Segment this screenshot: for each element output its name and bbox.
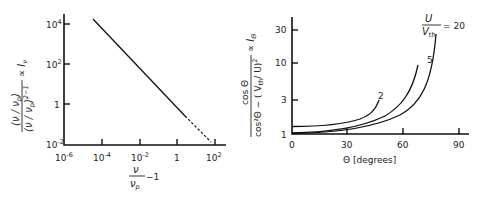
- left-xlabel-suffix: −1: [146, 172, 159, 182]
- left-xlabel: ν νp −1: [129, 164, 159, 191]
- left-xtick-label: 10-4: [93, 151, 111, 163]
- right-ylabel: cos Θ cos²Θ − ( Vth/ U)2 ∝ IΘ: [240, 34, 265, 137]
- curve-label-5: 5: [427, 55, 433, 65]
- legend-u-vth: U Vth = 20: [422, 13, 465, 39]
- right-ytick-label: 30: [275, 25, 287, 35]
- left-axes: [64, 14, 226, 145]
- left-ytick-label: 104: [46, 18, 62, 30]
- right-axes: [292, 17, 469, 134]
- right-ytick-label: 3: [281, 95, 287, 105]
- legend-num: U: [425, 13, 433, 24]
- right-ytick-label: 10: [275, 58, 287, 68]
- left-curve-solid: [93, 19, 185, 116]
- right-ytick-label: 1: [281, 130, 287, 140]
- figure-canvas: 104 102 1 10-2 10-6 10-4 10-2 1 102 ν νp…: [0, 0, 477, 201]
- right-ylabel-den: cos²Θ − ( Vth/ U)2: [251, 59, 265, 137]
- right-xtick-label: 30: [341, 140, 353, 150]
- right-curve-U2: [292, 100, 379, 127]
- right-ylabel-num: cos Θ: [240, 80, 250, 105]
- left-xlabel-den: νp: [130, 178, 140, 191]
- right-curve-U20: [292, 34, 436, 134]
- left-xtick-label: 10-2: [131, 151, 149, 163]
- left-xtick-label: 10-6: [55, 151, 73, 163]
- right-xtick-label: 60: [397, 140, 409, 150]
- legend-eq: = 20: [443, 21, 465, 31]
- left-xtick-label: 102: [206, 151, 222, 163]
- right-xlabel: Θ [degrees]: [343, 155, 396, 165]
- right-chart: 30 10 3 1 0 30 60 90 Θ [degrees] 2 5 U V…: [240, 13, 469, 165]
- left-ytick-label: 1: [54, 100, 60, 110]
- left-ylabel-den: (ν / νp)2−1: [22, 85, 36, 132]
- right-xtick-label: 90: [453, 140, 465, 150]
- left-ylabel-prop: ∝ Iν: [16, 60, 29, 77]
- left-curve-dashed: [185, 116, 211, 142]
- left-xtick-label: 1: [174, 153, 180, 163]
- right-xtick-label: 0: [289, 140, 295, 150]
- legend-den: Vth: [422, 26, 436, 39]
- left-chart: 104 102 1 10-2 10-6 10-4 10-2 1 102 ν νp…: [10, 14, 226, 191]
- right-ylabel-prop: ∝ IΘ: [245, 34, 258, 52]
- right-curve-U5: [292, 65, 418, 133]
- left-ylabel: (ν / νp) (ν / νp)2−1 ∝ Iν: [10, 60, 36, 132]
- left-ytick-label: 102: [46, 58, 62, 70]
- curve-label-2: 2: [378, 91, 384, 101]
- left-xlabel-num: ν: [133, 164, 139, 175]
- left-ytick-label: 10-2: [46, 138, 64, 150]
